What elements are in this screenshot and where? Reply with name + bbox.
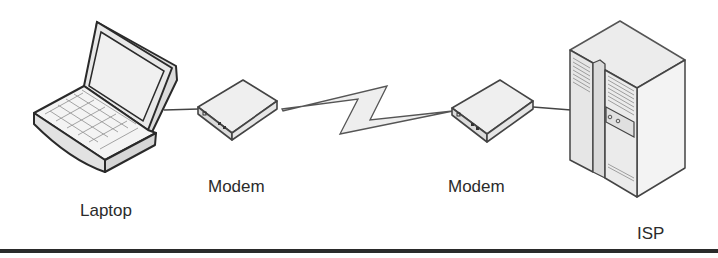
modem-right-label: Modem bbox=[448, 177, 505, 197]
laptop-icon bbox=[34, 22, 177, 172]
laptop-label: Laptop bbox=[80, 201, 132, 221]
modem-icon-right bbox=[452, 80, 533, 142]
server-icon bbox=[570, 21, 685, 197]
modem-left-label: Modem bbox=[208, 177, 265, 197]
connector-laptop-modem bbox=[164, 109, 199, 110]
bottom-divider bbox=[0, 249, 718, 253]
connector-modem-isp bbox=[533, 107, 571, 110]
wireless-link-icon bbox=[282, 86, 453, 134]
isp-label: ISP bbox=[637, 224, 664, 244]
modem-icon-left bbox=[198, 80, 277, 140]
